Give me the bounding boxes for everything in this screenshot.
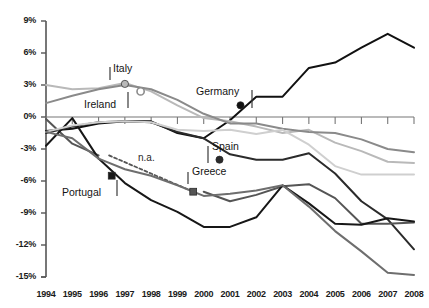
- na-label: n.a.: [138, 152, 155, 163]
- marker-ireland: [137, 88, 144, 95]
- y-tick-label--12%: -12%: [2, 239, 36, 249]
- x-tick-label-2008: 2008: [399, 289, 429, 299]
- marker-greece: [190, 188, 197, 195]
- marker-germany: [237, 102, 244, 109]
- series-label-greece: Greece: [192, 165, 226, 177]
- marker-portugal: [108, 172, 115, 179]
- series-line-portugal: [46, 118, 414, 227]
- series-markers-group: [108, 80, 244, 195]
- y-tick-label--3%: -3%: [2, 143, 36, 153]
- marker-spain: [216, 156, 223, 163]
- y-tick-label--15%: -15%: [2, 271, 36, 281]
- y-tick-label-6%: 6%: [2, 47, 36, 57]
- series-label-spain: Spain: [212, 140, 239, 152]
- y-tick-label--6%: -6%: [2, 175, 36, 185]
- series-label-germany: Germany: [196, 85, 239, 97]
- y-tick-label-0%: 0%: [2, 111, 36, 121]
- y-tick-label-9%: 9%: [2, 15, 36, 25]
- y-tick-label--9%: -9%: [2, 207, 36, 217]
- marker-italy: [121, 80, 128, 87]
- y-tick-label-3%: 3%: [2, 79, 36, 89]
- series-label-portugal: Portugal: [62, 186, 101, 198]
- series-label-italy: Italy: [113, 62, 132, 74]
- series-group: [46, 34, 414, 275]
- series-label-ireland: Ireland: [84, 98, 116, 110]
